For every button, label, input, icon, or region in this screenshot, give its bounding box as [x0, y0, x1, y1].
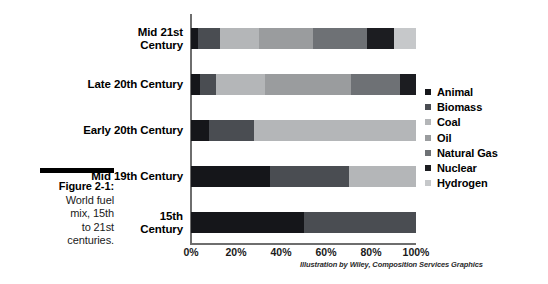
category-label-line: Mid 19th Century: [8, 170, 183, 183]
category-label: 15thCentury: [8, 210, 183, 236]
category-label-line: Century: [8, 39, 183, 52]
bar-segment-animal: [191, 74, 200, 95]
category-label-line: Late 20th Century: [8, 78, 183, 91]
x-tick-label: 20%: [225, 246, 246, 258]
bar-segment-coal: [349, 166, 417, 187]
legend-item-natural-gas[interactable]: Natural Gas: [425, 145, 498, 160]
bar-segment-coal: [254, 120, 416, 141]
bar-segment-coal: [216, 74, 266, 95]
illustration-credit: Illustration by Wiley, Composition Servi…: [300, 260, 483, 269]
legend-swatch-icon: [425, 180, 431, 186]
x-tick-label: 80%: [360, 246, 381, 258]
legend-swatch-icon: [425, 150, 431, 156]
legend-swatch-icon: [425, 89, 431, 95]
x-tick-label: 0%: [183, 246, 198, 258]
legend-swatch-icon: [425, 104, 431, 110]
bar-segment-natural-gas: [351, 74, 401, 95]
category-label-line: Century: [8, 223, 183, 236]
category-label-line: 15th: [8, 210, 183, 223]
bar-segment-oil: [259, 28, 313, 49]
bar-segment-hydrogen: [394, 28, 417, 49]
legend-swatch-icon: [425, 135, 431, 141]
legend-label: Oil: [437, 132, 451, 144]
category-label-line: Mid 21st: [8, 26, 183, 39]
legend-swatch-icon: [425, 165, 431, 171]
category-label: Mid 21stCentury: [8, 26, 183, 52]
bar-segment-biomass: [304, 212, 417, 233]
bar-segment-animal: [191, 120, 209, 141]
x-tick-label: 40%: [270, 246, 291, 258]
bar-segment-biomass: [270, 166, 349, 187]
bar-segment-animal: [191, 166, 270, 187]
caption-line-0: World fuel: [22, 194, 114, 208]
legend-label: Nuclear: [437, 162, 477, 174]
x-tick-label: 100%: [403, 246, 430, 258]
bar-segment-nuclear: [400, 74, 416, 95]
bar-segment-coal: [220, 28, 258, 49]
bar-segment-animal: [191, 28, 198, 49]
legend-item-animal[interactable]: Animal: [425, 84, 498, 99]
caption-line-3: centuries.: [22, 234, 114, 248]
bar-segment-biomass: [209, 120, 254, 141]
legend-swatch-icon: [425, 119, 431, 125]
bar-segment-natural-gas: [313, 28, 367, 49]
category-label-line: Early 20th Century: [8, 124, 183, 137]
legend-item-biomass[interactable]: Biomass: [425, 99, 498, 114]
legend-label: Animal: [437, 86, 473, 98]
plot-area: [190, 14, 416, 244]
x-axis-line: [190, 243, 416, 245]
category-label: Late 20th Century: [8, 78, 183, 91]
legend-item-oil[interactable]: Oil: [425, 130, 498, 145]
bar-segment-nuclear: [367, 28, 394, 49]
legend-label: Biomass: [437, 101, 482, 113]
legend-label: Natural Gas: [437, 147, 498, 159]
legend-label: Hydrogen: [437, 177, 488, 189]
category-label: Early 20th Century: [8, 124, 183, 137]
chart-legend: AnimalBiomassCoalOilNatural GasNuclearHy…: [425, 84, 498, 191]
bar-segment-animal: [191, 212, 304, 233]
legend-item-coal[interactable]: Coal: [425, 115, 498, 130]
legend-item-hydrogen[interactable]: Hydrogen: [425, 176, 498, 191]
x-tick-label: 60%: [315, 246, 336, 258]
figure-page: Figure 2-1: World fuel mix, 15th to 21st…: [0, 0, 548, 284]
bar-segment-oil: [265, 74, 351, 95]
bar-segment-biomass: [198, 28, 221, 49]
legend-item-nuclear[interactable]: Nuclear: [425, 160, 498, 175]
legend-label: Coal: [437, 116, 460, 128]
bar-segment-biomass: [200, 74, 216, 95]
category-label: Mid 19th Century: [8, 170, 183, 183]
